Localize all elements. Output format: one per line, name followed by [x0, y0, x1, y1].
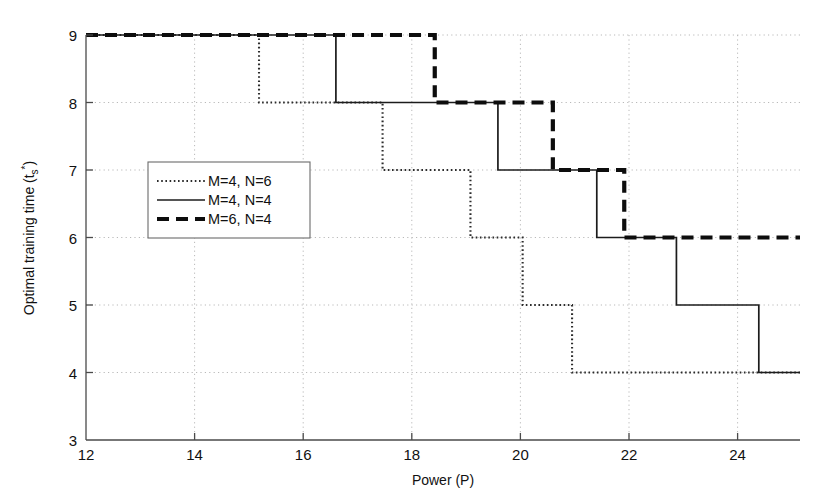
xtick-label-22: 22: [621, 446, 638, 463]
xtick-label-20: 20: [512, 446, 529, 463]
xtick-label-16: 16: [295, 446, 312, 463]
xtick-label-14: 14: [186, 446, 203, 463]
xtick-label-18: 18: [403, 446, 420, 463]
ytick-label-5: 5: [69, 297, 77, 314]
ytick-label-8: 8: [69, 95, 77, 112]
legend-label-m4-n4: M=4, N=4: [208, 192, 272, 208]
ytick-label-3: 3: [69, 432, 77, 449]
xtick-label-24: 24: [729, 446, 746, 463]
xtick-label-12: 12: [78, 446, 95, 463]
ytick-label-6: 6: [69, 230, 77, 247]
legend-label-m6-n4: M=6, N=4: [208, 211, 272, 227]
legend[interactable]: M=4, N=6 M=4, N=4 M=6, N=4: [148, 162, 310, 238]
ytick-label-9: 9: [69, 27, 77, 44]
y-axis-title-close: ): [21, 161, 37, 166]
ytick-label-4: 4: [69, 365, 77, 382]
figure-background: [0, 0, 832, 499]
y-axis-title-main: Optimal training time (t: [21, 174, 37, 315]
chart-figure: 9 8 7 6 5 4 3 12 14 16 18 20 22 24 Power…: [0, 0, 832, 499]
x-axis-title: Power (P): [412, 472, 474, 488]
legend-label-m4-n6: M=4, N=6: [208, 173, 272, 189]
ytick-label-7: 7: [69, 162, 77, 179]
